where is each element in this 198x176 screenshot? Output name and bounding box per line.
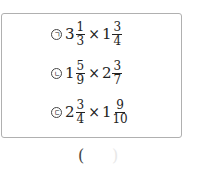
problem-row: ㄱ 3 13 × 1 34 <box>51 19 123 49</box>
numerator: 9 <box>115 99 125 113</box>
denominator: 9 <box>77 74 85 87</box>
multiply-operator: × <box>88 65 100 81</box>
problem-box: ㄱ 3 13 × 1 34 ㄴ 1 59 × 2 37 ㄷ 2 34 × 1 9… <box>1 13 182 138</box>
denominator: 4 <box>113 35 121 48</box>
denominator: 3 <box>77 35 85 48</box>
multiply-operator: × <box>88 26 100 42</box>
numerator: 5 <box>76 60 86 74</box>
numerator: 1 <box>76 21 86 35</box>
whole-number: 2 <box>102 64 112 82</box>
whole-number: 3 <box>65 25 75 43</box>
circled-marker-digeut: ㄷ <box>51 107 62 118</box>
circled-marker-nieun: ㄴ <box>51 68 62 79</box>
denominator: 10 <box>112 113 127 126</box>
fraction: 59 <box>76 60 86 87</box>
numerator: 3 <box>112 21 122 35</box>
multiply-operator: × <box>88 104 100 120</box>
denominator: 7 <box>113 74 121 87</box>
fraction: 13 <box>76 21 86 48</box>
problem-row: ㄷ 2 34 × 1 910 <box>51 97 129 127</box>
whole-number: 1 <box>102 25 112 43</box>
answer-open-paren: ( <box>78 146 84 165</box>
numerator: 3 <box>76 99 86 113</box>
numerator: 3 <box>112 60 122 74</box>
fraction: 37 <box>112 60 122 87</box>
fraction: 34 <box>112 21 122 48</box>
answer-close-paren: ) <box>112 146 118 165</box>
fraction: 910 <box>112 99 127 126</box>
denominator: 4 <box>77 113 85 126</box>
fraction: 34 <box>76 99 86 126</box>
problem-row: ㄴ 1 59 × 2 37 <box>51 58 123 88</box>
whole-number: 1 <box>102 103 112 121</box>
whole-number: 1 <box>65 64 75 82</box>
circled-marker-giyeok: ㄱ <box>51 29 62 40</box>
whole-number: 2 <box>65 103 75 121</box>
